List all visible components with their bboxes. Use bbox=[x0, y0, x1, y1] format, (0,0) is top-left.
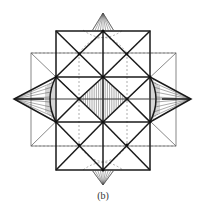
central-hatched-diamond bbox=[79, 77, 127, 122]
hatch-line bbox=[98, 13, 104, 31]
hatch-line bbox=[103, 170, 109, 185]
hatch-line bbox=[14, 99, 51, 107]
bottom-hatched-spike bbox=[92, 170, 114, 185]
left-hatched-spike bbox=[14, 77, 56, 122]
star-pattern-diagram bbox=[0, 0, 200, 213]
top-hatched-spike bbox=[92, 13, 114, 31]
hatch-line bbox=[103, 13, 109, 31]
figure-caption: (b) bbox=[0, 190, 200, 201]
hatch-line bbox=[155, 99, 191, 107]
hatch-line bbox=[98, 170, 104, 185]
right-hatched-spike bbox=[150, 77, 191, 122]
